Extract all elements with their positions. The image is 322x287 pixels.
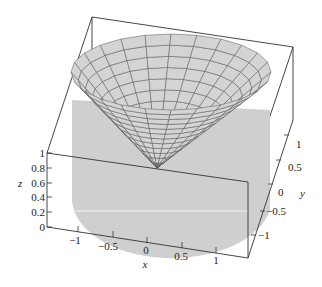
z-tick-0.6: 0.6 bbox=[31, 177, 45, 189]
y-tick--1: −1 bbox=[258, 229, 270, 241]
surface-patch bbox=[152, 143, 163, 148]
x-tick-0: 0 bbox=[143, 244, 149, 256]
z-tick-0: 0 bbox=[40, 221, 46, 233]
surface-patch bbox=[150, 90, 165, 102]
z-tick-0.8: 0.8 bbox=[31, 162, 45, 174]
y-tick--0.5: −0.5 bbox=[266, 205, 286, 217]
z-tick-0.4: 0.4 bbox=[31, 191, 45, 203]
y-tick-1: 1 bbox=[296, 138, 302, 150]
surface-plot: 0 0.2 0.4 0.6 0.8 1 z −1 −0.5 0 0.5 1 x … bbox=[0, 0, 322, 287]
x-tick--0.5: −0.5 bbox=[98, 240, 118, 252]
surface-patch bbox=[169, 45, 194, 57]
surface-patch bbox=[146, 45, 170, 57]
surface-patch bbox=[166, 68, 187, 80]
surface-patch bbox=[145, 109, 171, 115]
x-tick-0.5: 0.5 bbox=[174, 250, 188, 262]
surface-patch bbox=[153, 148, 162, 153]
surface-patch bbox=[145, 34, 171, 46]
y-tick-0.5: 0.5 bbox=[288, 161, 302, 173]
y-axis-label: y bbox=[299, 187, 305, 199]
z-axis-label: z bbox=[17, 177, 23, 189]
x-axis-label: x bbox=[142, 258, 148, 270]
x-tick-1: 1 bbox=[213, 254, 219, 266]
z-tick-0.2: 0.2 bbox=[31, 206, 45, 218]
surface-patch bbox=[147, 56, 169, 68]
surface-patch bbox=[170, 34, 197, 46]
surface-patch bbox=[149, 79, 166, 91]
z-tick-1: 1 bbox=[40, 147, 46, 159]
surface-patch bbox=[151, 138, 164, 143]
surface-patch bbox=[170, 109, 197, 115]
surface-patch bbox=[148, 68, 167, 80]
x-tick--1: −1 bbox=[69, 234, 81, 246]
y-tick-0: 0 bbox=[278, 186, 284, 198]
surface-patch bbox=[168, 56, 191, 68]
